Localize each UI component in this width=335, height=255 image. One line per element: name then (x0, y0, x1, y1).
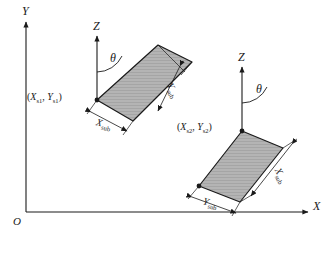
axis-label-y: Y (22, 5, 29, 17)
paren-close: ) (209, 121, 212, 132)
diagram-canvas (0, 0, 335, 255)
paren-close: ) (59, 91, 62, 102)
panel-1-theta-label: θ (110, 52, 116, 64)
figure-container: Y X O Z θ (Xs1, Ys1) Xsub Ysub Z θ (Xs2,… (0, 0, 335, 255)
panel-2-coord-label: (Xs2, Ys2) (177, 122, 212, 135)
panel-2-anchor-point (240, 129, 245, 134)
panel-2-z-label: Z (238, 51, 245, 63)
axis-label-origin: O (13, 216, 21, 227)
panel-1-z-label: Z (93, 20, 100, 32)
panel-2-theta-label: θ (256, 83, 262, 95)
coord-comma: , (42, 91, 45, 102)
panel-2-angle-arc (242, 87, 267, 103)
axis-label-x: X (313, 200, 320, 212)
dim-x-subscript: sub (101, 124, 111, 133)
coord-comma: , (192, 121, 195, 132)
dim-y-subscript: sub (207, 202, 217, 211)
panel-1-coord-label: (Xs1, Ys1) (27, 92, 62, 105)
panel-2-surface (199, 131, 283, 202)
